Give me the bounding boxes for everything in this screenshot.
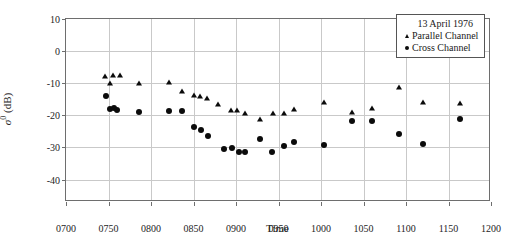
data-point bbox=[269, 149, 275, 155]
data-point bbox=[321, 100, 327, 105]
x-gridline bbox=[279, 19, 280, 200]
y-gridline bbox=[66, 115, 489, 116]
y-tick-label: -30 bbox=[47, 142, 60, 153]
circle-marker-icon bbox=[402, 46, 412, 51]
y-tick bbox=[62, 147, 66, 148]
data-point bbox=[321, 142, 327, 148]
y-axis-label: σ0 (dB) bbox=[0, 93, 13, 125]
legend: 13 April 1976 Parallel Channel Cross Cha… bbox=[396, 14, 485, 58]
x-tick bbox=[66, 202, 67, 206]
data-point bbox=[205, 133, 211, 139]
x-gridline bbox=[194, 19, 195, 200]
data-point bbox=[281, 143, 287, 149]
data-point bbox=[270, 111, 276, 116]
legend-label-parallel-channel: Parallel Channel bbox=[412, 30, 478, 42]
legend-title: 13 April 1976 bbox=[402, 18, 478, 30]
data-point bbox=[179, 89, 185, 94]
data-point bbox=[396, 85, 402, 90]
data-point bbox=[257, 117, 263, 122]
x-tick bbox=[449, 202, 450, 206]
data-point bbox=[136, 109, 142, 115]
data-point bbox=[349, 118, 355, 124]
data-point bbox=[229, 145, 235, 151]
x-tick bbox=[364, 202, 365, 206]
data-point bbox=[103, 93, 109, 99]
data-point bbox=[215, 102, 221, 107]
y-tick bbox=[62, 83, 66, 84]
x-axis-label: Time bbox=[65, 222, 490, 234]
data-point bbox=[114, 107, 120, 113]
x-tick bbox=[491, 202, 492, 206]
data-point bbox=[236, 149, 242, 155]
data-point bbox=[420, 100, 426, 105]
y-tick bbox=[62, 115, 66, 116]
data-point bbox=[457, 101, 463, 106]
data-point bbox=[221, 146, 227, 152]
data-point bbox=[291, 139, 297, 145]
data-point bbox=[420, 141, 426, 147]
x-tick bbox=[406, 202, 407, 206]
data-point bbox=[107, 80, 113, 85]
data-point bbox=[110, 73, 116, 78]
y-tick-label: -20 bbox=[47, 110, 60, 121]
y-gridline bbox=[66, 180, 489, 181]
data-point bbox=[281, 111, 287, 116]
data-point bbox=[234, 107, 240, 112]
data-point bbox=[198, 127, 204, 133]
y-tick-label: 10 bbox=[50, 14, 60, 25]
data-point bbox=[396, 131, 402, 137]
x-gridline bbox=[321, 19, 322, 200]
x-tick bbox=[109, 202, 110, 206]
triangle-marker-icon bbox=[402, 34, 412, 38]
x-tick bbox=[151, 202, 152, 206]
sigma-superscript: 0 bbox=[0, 116, 8, 120]
x-tick bbox=[321, 202, 322, 206]
data-point bbox=[242, 111, 248, 116]
data-point bbox=[369, 105, 375, 110]
data-point bbox=[257, 136, 263, 142]
data-point bbox=[349, 110, 355, 115]
data-point bbox=[166, 80, 172, 85]
y-tick bbox=[62, 180, 66, 181]
x-tick bbox=[279, 202, 280, 206]
sigma-symbol: σ bbox=[1, 120, 13, 125]
data-point bbox=[204, 96, 210, 101]
data-point bbox=[191, 124, 197, 130]
y-gridline bbox=[66, 147, 489, 148]
x-tick bbox=[194, 202, 195, 206]
x-tick bbox=[236, 202, 237, 206]
legend-item-parallel-channel: Parallel Channel bbox=[402, 30, 478, 42]
data-point bbox=[291, 106, 297, 111]
data-point bbox=[457, 116, 463, 122]
scatter-chart-figure: 0700075008000850090009501000105011001150… bbox=[0, 0, 521, 246]
y-tick bbox=[62, 19, 66, 20]
legend-item-cross-channel: Cross Channel bbox=[402, 42, 478, 54]
data-point bbox=[117, 73, 123, 78]
data-point bbox=[242, 149, 248, 155]
y-tick-label: -10 bbox=[47, 78, 60, 89]
y-gridline bbox=[66, 83, 489, 84]
data-point bbox=[166, 108, 172, 114]
data-point bbox=[102, 73, 108, 78]
legend-label-cross-channel: Cross Channel bbox=[412, 42, 471, 54]
x-gridline bbox=[364, 19, 365, 200]
data-point bbox=[179, 108, 185, 114]
data-point bbox=[197, 94, 203, 99]
y-tick-label: 0 bbox=[55, 46, 60, 57]
y-tick-label: -40 bbox=[47, 174, 60, 185]
data-point bbox=[136, 80, 142, 85]
data-point bbox=[369, 118, 375, 124]
x-gridline bbox=[151, 19, 152, 200]
y-tick bbox=[62, 51, 66, 52]
